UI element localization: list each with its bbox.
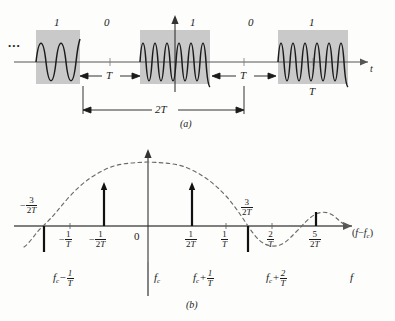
- tick-label-pos-1-2T: 12T: [185, 230, 197, 250]
- interval-label-T-2: T: [240, 70, 246, 81]
- tick-label-neg-1-2T: −12T: [89, 230, 106, 250]
- span-label-2T: 2T: [155, 104, 167, 115]
- figure-container: ... 1 0 1 0 1 T T T 2T t (a) −32T −1T −1…: [0, 0, 395, 321]
- tick-label-zero: 0: [134, 231, 140, 242]
- bit-label-2: 1: [190, 17, 196, 28]
- fc-label-minus-1-T: fc−1T: [53, 269, 74, 289]
- impulse-arrow-neg-1-2T: [101, 182, 107, 190]
- bit-label-0: 1: [54, 17, 60, 28]
- tick-label-pos-3-2T: 32T: [241, 198, 253, 218]
- caption-a: (a): [180, 119, 192, 129]
- interval-label-T-1: T: [106, 70, 112, 81]
- tick-label-pos-5-2T: 52T: [309, 230, 321, 250]
- panel-a-group: [14, 15, 368, 114]
- tick-label-pos-1-T: 1T: [221, 230, 228, 250]
- impulse-arrow-pos-1-2T: [189, 182, 195, 190]
- fc-label-f: f: [350, 272, 353, 283]
- interval-label-T-3: T: [309, 86, 315, 97]
- frequency-axis-label: (f−fc): [352, 228, 373, 240]
- fc-label-plus-2-T: fc+2T: [266, 269, 287, 289]
- amplitude-axis-arrow-a: [171, 15, 178, 24]
- time-axis-label: t: [370, 64, 373, 74]
- tick-label-pos-2-T: 2T: [267, 230, 274, 250]
- bit-label-4: 1: [309, 17, 315, 28]
- ellipsis-label: ...: [8, 36, 21, 49]
- bit-label-3: 0: [248, 17, 254, 28]
- time-axis-arrow: [360, 59, 368, 66]
- tick-label-neg-1-T: −1T: [59, 230, 72, 250]
- fc-label-plus-1-T: fc+1T: [193, 269, 214, 289]
- caption-b-text: (b): [186, 300, 198, 310]
- bit-label-1: 0: [104, 17, 110, 28]
- fc-label-center: fc: [154, 272, 160, 285]
- psd-axis-arrow: [144, 149, 151, 158]
- tick-label-neg-3-2T: −32T: [20, 196, 37, 216]
